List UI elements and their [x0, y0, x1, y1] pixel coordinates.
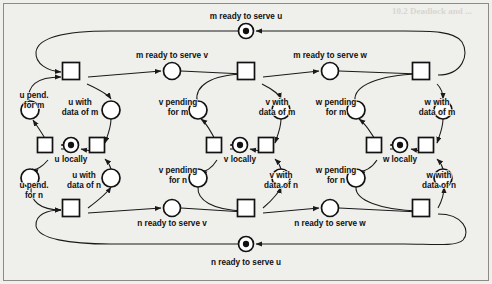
place-label-u_locally: u locally [55, 155, 88, 164]
transition-t_v_left [207, 138, 222, 153]
token-marker [237, 142, 243, 148]
petri-net-figure: 10.2 Deadlock and ... [0, 0, 492, 284]
scan-artifact-header: 10.2 Deadlock and ... [392, 6, 472, 16]
transition-t_w_bot [413, 200, 430, 217]
transition-t_v_right [259, 138, 274, 153]
place-label-v_data_n: v withdata of n [264, 171, 298, 190]
place-label-m_serve_u: m ready to serve u [210, 12, 282, 21]
transition-t_u_right [90, 138, 105, 153]
place-circle [102, 169, 120, 187]
place-n_serve_w [322, 200, 339, 217]
place-label-n_serve_v: n ready to serve v [137, 219, 207, 228]
place-label-u_data_m: u withdata of m [62, 98, 98, 117]
place-label-w_locally: w locally [382, 155, 418, 164]
token-marker [243, 28, 249, 34]
transition-t_u_top [63, 63, 80, 80]
node-layer [21, 24, 452, 252]
place-label-w_data_m: w withdata of m [419, 98, 455, 117]
place-u_data_m [102, 101, 120, 119]
transition-t_w_right [419, 138, 434, 153]
transition-t_v_top [238, 63, 255, 80]
place-label-n_serve_w: n ready to serve w [294, 219, 366, 228]
token-marker [397, 142, 403, 148]
place-circle [164, 200, 181, 217]
place-label-u_data_n: u withdata of n [67, 171, 101, 190]
transition-t_u_bot [63, 200, 80, 217]
place-label-m_serve_w: m ready to serve w [293, 51, 367, 60]
place-label-u_pend_m: u pend.for m [19, 91, 48, 110]
place-v_locally [233, 138, 248, 153]
place-m_serve_w [322, 63, 339, 80]
place-m_serve_u [239, 24, 254, 39]
transition-t_w_left [367, 138, 382, 153]
place-w_locally [393, 138, 408, 153]
place-label-v_data_m: v withdata of m [259, 98, 295, 117]
place-label-w_data_n: w withdata of n [422, 171, 456, 190]
place-m_serve_v [164, 63, 181, 80]
place-n_serve_u [239, 237, 254, 252]
petri-net-canvas: 10.2 Deadlock and ... [0, 0, 492, 284]
token-marker [68, 142, 74, 148]
place-n_serve_v [164, 200, 181, 217]
place-label-m_serve_v: m ready to serve v [136, 51, 208, 60]
transition-t_w_top [413, 63, 430, 80]
place-circle [102, 101, 120, 119]
place-u_data_n [102, 169, 120, 187]
place-circle [322, 200, 339, 217]
place-u_locally [64, 138, 79, 153]
place-label-u_pend_n: u pend.for n [19, 181, 48, 200]
token-marker [243, 241, 249, 247]
transition-t_u_left [38, 138, 53, 153]
place-circle [164, 63, 181, 80]
place-circle [322, 63, 339, 80]
transition-t_v_bot [238, 200, 255, 217]
place-label-n_serve_u: n ready to serve u [211, 258, 281, 267]
place-label-v_locally: v locally [224, 155, 257, 164]
